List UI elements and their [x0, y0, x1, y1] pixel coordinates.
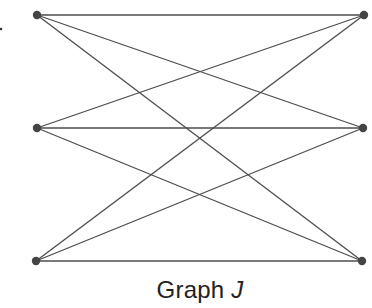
node-R3 [358, 257, 366, 265]
graph-label-variable: J [231, 276, 243, 303]
node-L3 [32, 257, 40, 265]
node-L1 [33, 11, 41, 19]
graph-label-title: Graph [157, 276, 225, 303]
graph-diagram [0, 0, 372, 308]
edges [36, 15, 364, 261]
graph-label: Graph J [0, 276, 372, 304]
node-R1 [360, 11, 368, 19]
node-L2 [33, 124, 41, 132]
stray-dot [0, 28, 2, 31]
node-R2 [359, 124, 367, 132]
